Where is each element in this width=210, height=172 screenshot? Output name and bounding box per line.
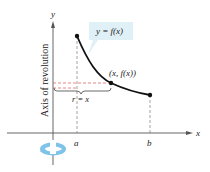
x-axis-label: x xyxy=(195,128,200,138)
tick-label-b: b xyxy=(147,138,152,148)
curve-start-point xyxy=(75,34,79,38)
tick-label-a: a xyxy=(74,138,79,148)
revolution-diagram: y x a b y = f(x) (x, f(x)) r = x Axis of… xyxy=(0,0,210,172)
curve-mid-point xyxy=(109,81,113,85)
rotation-arrow-icon xyxy=(40,140,64,154)
dashed-guides xyxy=(53,83,111,88)
x-axis xyxy=(7,131,193,135)
point-label: (x, f(x)) xyxy=(109,68,136,78)
curve-end-point xyxy=(148,93,152,97)
y-axis-label: y xyxy=(50,9,55,19)
curve-f xyxy=(77,36,150,95)
curve-label: y = f(x) xyxy=(95,26,123,36)
axis-of-revolution-label: Axis of revolution xyxy=(39,44,50,117)
radius-label: r = x xyxy=(72,94,89,104)
